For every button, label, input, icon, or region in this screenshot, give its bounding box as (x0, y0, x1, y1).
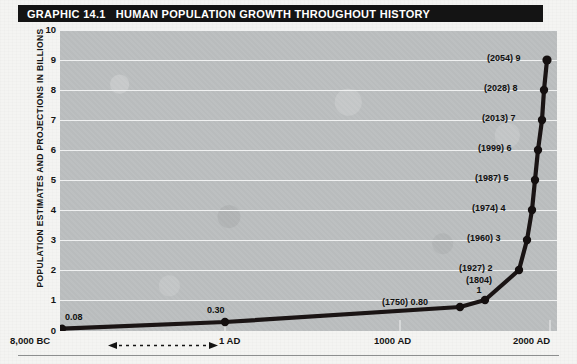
point-2013 (538, 116, 546, 124)
graphic-number: GRAPHIC 14.1 (27, 8, 106, 20)
point-2054 (542, 55, 551, 64)
y-tick-4: 4 (16, 204, 56, 215)
graphic-title: HUMAN POPULATION GROWTH THROUGHOUT HISTO… (116, 8, 430, 20)
chart-plot-area: 0.08 0.30 (1750) 0.80 (1804) 1 (1927) 2 … (60, 30, 557, 331)
label-1804-year: (1804) (466, 275, 492, 285)
point-1804 (481, 296, 489, 304)
label-1ad: 0.30 (207, 306, 225, 316)
y-tick-3: 3 (16, 234, 56, 245)
page-bottom-rule (18, 355, 559, 356)
label-1750: (1750) 0.80 (382, 298, 428, 308)
y-tick-6: 6 (16, 144, 56, 155)
point-1ad (221, 318, 229, 326)
y-tick-8: 8 (16, 84, 56, 95)
y-tick-5: 5 (16, 174, 56, 185)
point-8000bc (60, 324, 66, 331)
time-gap-arrow (108, 341, 218, 350)
point-1927 (515, 266, 523, 274)
label-2054: (2054) 9 (487, 54, 521, 64)
label-1804-value: 1 (476, 285, 481, 295)
x-axis-tick-labels: 8,000 BC 1 AD 1000 AD 2000 AD (0, 335, 577, 351)
label-1974: (1974) 4 (472, 204, 506, 214)
y-tick-2: 2 (16, 264, 56, 275)
x-tick-8000bc: 8,000 BC (10, 335, 50, 346)
y-tick-9: 9 (16, 54, 56, 65)
label-1804: (1804) 1 (461, 276, 497, 295)
y-tick-1: 1 (16, 294, 56, 305)
label-8000bc: 0.08 (65, 313, 83, 323)
point-1999 (534, 146, 542, 154)
graphic-title-bar: GRAPHIC 14.1 HUMAN POPULATION GROWTH THR… (18, 5, 543, 22)
x-tick-1ad: 1 AD (219, 335, 240, 346)
point-2028 (540, 86, 548, 94)
label-1987: (1987) 5 (475, 174, 509, 184)
label-1960: (1960) 3 (467, 234, 501, 244)
x-tick-1000ad: 1000 AD (374, 335, 411, 346)
point-1987 (531, 176, 539, 184)
point-1974 (528, 206, 536, 214)
label-1999: (1999) 6 (478, 144, 512, 154)
label-2028: (2028) 8 (484, 84, 518, 94)
point-1960 (523, 236, 531, 244)
label-2013: (2013) 7 (482, 114, 516, 124)
x-tick-2000ad: 2000 AD (513, 335, 550, 346)
point-1750 (456, 303, 464, 311)
label-1927: (1927) 2 (459, 264, 493, 274)
y-tick-7: 7 (16, 114, 56, 125)
y-axis-tick-labels: 10 9 8 7 6 5 4 3 2 1 0 (10, 30, 56, 331)
y-tick-10: 10 (16, 24, 56, 35)
